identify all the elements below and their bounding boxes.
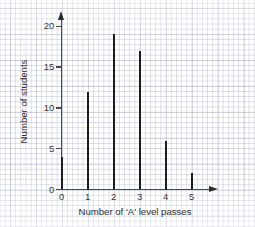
x-axis-tick-label: 3 (130, 191, 150, 202)
x-axis-tick-label: 4 (156, 191, 176, 202)
bar (61, 157, 63, 190)
x-axis-title: Number of 'A' level passes (40, 206, 230, 217)
x-axis-tick-label: 0 (52, 191, 72, 202)
y-axis-tick-label-wrap: 5 (0, 143, 54, 155)
y-axis-tick-label: 5 (32, 143, 54, 154)
y-axis-tick-label: 0 (32, 184, 54, 195)
y-axis-tick-label: 15 (32, 61, 54, 72)
y-axis-arrow-icon (58, 11, 64, 20)
y-axis-tick (56, 107, 61, 108)
bar (165, 141, 167, 190)
bar (113, 34, 115, 189)
y-axis-tick-label-wrap: 15 (0, 61, 54, 73)
y-axis-tick (56, 148, 61, 149)
y-axis-tick-label-wrap: 20 (0, 20, 54, 32)
plot-area: Number of 'A' level passes Number of stu… (0, 0, 255, 227)
x-axis-tick-label: 5 (182, 191, 202, 202)
y-axis-tick-label: 20 (32, 20, 54, 31)
y-axis-tick-label: 10 (32, 102, 54, 113)
y-axis-tick-label-wrap: 0 (0, 184, 54, 196)
bar (139, 51, 141, 190)
bar (87, 92, 89, 190)
y-axis-tick-label-wrap: 10 (0, 102, 54, 114)
bar (191, 173, 193, 189)
x-axis-tick-label: 1 (78, 191, 98, 202)
x-axis-tick-label: 2 (104, 191, 124, 202)
y-axis-tick (56, 26, 61, 27)
chart-screenshot: Number of 'A' level passes Number of stu… (0, 0, 255, 227)
x-axis-arrow-icon (209, 186, 218, 192)
y-axis-tick (56, 66, 61, 67)
